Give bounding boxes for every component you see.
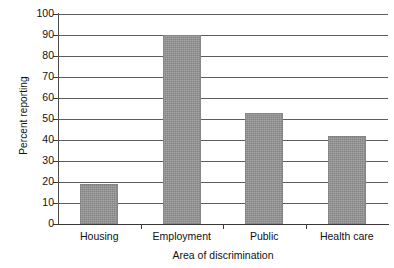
gridline [58, 77, 388, 78]
y-tick-label: 90 [42, 28, 54, 41]
gridline [58, 98, 388, 99]
gridline [58, 56, 388, 57]
gridline [58, 14, 388, 15]
x-tick-mark [223, 224, 224, 229]
y-tick-label: 40 [42, 133, 54, 146]
bar [328, 136, 366, 224]
x-axis-title: Area of discrimination [58, 249, 388, 261]
x-tick-label: Public [223, 230, 306, 242]
bar-chart: Percent reporting 0102030405060708090100… [0, 0, 394, 268]
x-tick-label: Housing [58, 230, 141, 242]
y-tick-label: 80 [42, 49, 54, 62]
bar [245, 113, 283, 224]
plot-area: 0102030405060708090100 [58, 14, 388, 224]
x-tick-label: Employment [141, 230, 224, 242]
y-axis-title: Percent reporting [18, 41, 29, 191]
gridline [58, 35, 388, 36]
y-tick-label: 0 [48, 217, 54, 230]
bar [80, 184, 118, 224]
x-axis-labels: HousingEmploymentPublicHealth care [58, 230, 388, 246]
y-tick-label: 10 [42, 196, 54, 209]
y-tick-label: 30 [42, 154, 54, 167]
y-tick-label: 100 [36, 7, 54, 20]
y-tick-label: 20 [42, 175, 54, 188]
y-tick-label: 70 [42, 70, 54, 83]
y-tick-label: 50 [42, 112, 54, 125]
x-tick-mark [306, 224, 307, 229]
gridline [58, 119, 388, 120]
x-tick-mark [141, 224, 142, 229]
y-tick-label: 60 [42, 91, 54, 104]
x-tick-label: Health care [306, 230, 389, 242]
bar [163, 35, 201, 224]
